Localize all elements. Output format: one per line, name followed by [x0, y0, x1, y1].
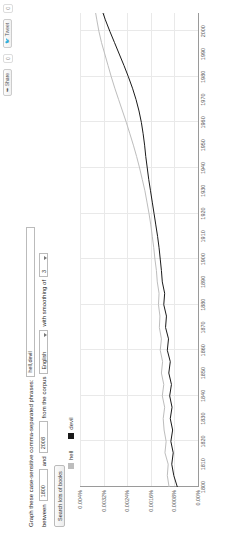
x-axis-tick-label: 1950: [200, 139, 206, 151]
x-axis-tick-label: 1970: [200, 93, 206, 105]
legend-item: hell: [68, 451, 74, 469]
x-axis-tick-label: 1930: [200, 185, 206, 197]
range-row: between and from the corpus English with…: [39, 6, 48, 527]
year-start-input[interactable]: [39, 469, 48, 501]
x-axis-tick-label: 1880: [200, 299, 206, 311]
tweet-label: Tweet: [5, 23, 10, 36]
chart-legend: helldevil: [68, 417, 74, 469]
x-axis-tick-label: 2000: [200, 25, 206, 37]
x-axis-tick-label: 1840: [200, 390, 206, 402]
legend-label: hell: [68, 451, 74, 460]
x-axis-tick-label: 1900: [200, 253, 206, 265]
y-axis-tick-label: 0.0016%: [148, 490, 154, 512]
rotated-viewport: ➥ Share 0 🐦 Tweet 0 Graph these case-sen…: [0, 0, 230, 533]
tweet-button[interactable]: 🐦 Tweet: [3, 19, 12, 48]
x-axis-tick-label: 1870: [200, 321, 206, 333]
x-axis-tick-label: 1820: [200, 435, 206, 447]
x-axis-tick-label: 1800: [200, 481, 206, 493]
x-axis-tick-label: 1810: [200, 458, 206, 470]
twitter-bird-icon: 🐦: [5, 38, 10, 44]
x-axis-tick-label: 1960: [200, 116, 206, 128]
x-axis-tick-label: 1850: [200, 367, 206, 379]
phrases-row: Graph these case-sensitive comma-separat…: [26, 6, 35, 527]
x-axis-tick-label: 1910: [200, 230, 206, 242]
y-axis-tick-label: 0.004%: [77, 490, 83, 509]
and-label: and: [41, 456, 47, 466]
phrases-input[interactable]: [26, 227, 35, 377]
share-icon: ➥: [5, 88, 10, 92]
legend-swatch-icon: [68, 463, 74, 469]
y-axis-tick-label: 0.0032%: [101, 490, 107, 512]
search-books-button[interactable]: Search lots of books: [54, 465, 65, 527]
legend-swatch-icon: [68, 433, 74, 439]
series-line-devil: [103, 13, 177, 487]
corpus-label: from the corpus: [41, 377, 47, 419]
between-label: between: [41, 504, 47, 527]
x-axis-tick-label: 1940: [200, 162, 206, 174]
x-axis-tick-label: 1980: [200, 71, 206, 83]
legend-item: devil: [68, 417, 74, 438]
x-axis-tick-label: 1860: [200, 344, 206, 356]
x-axis-tick-label: 1830: [200, 413, 206, 425]
social-share-bar: ➥ Share 0 🐦 Tweet 0: [3, 4, 13, 96]
ngram-chart: 0.00%0.0008%0.0016%0.0024%0.0032%0.004%1…: [80, 13, 198, 487]
corpus-select[interactable]: English: [39, 330, 48, 374]
smoothing-select[interactable]: 3: [39, 253, 48, 277]
share-count: 0: [3, 54, 13, 63]
year-end-input[interactable]: [39, 421, 48, 453]
y-axis-tick-label: 0.0008%: [171, 490, 177, 512]
x-axis-tick-label: 1920: [200, 207, 206, 219]
query-form: Graph these case-sensitive comma-separat…: [26, 6, 69, 527]
ngram-viewer-page: ➥ Share 0 🐦 Tweet 0 Graph these case-sen…: [0, 0, 230, 533]
x-axis: [198, 13, 199, 487]
series-lines: [80, 13, 198, 487]
y-axis-tick-label: 0.0024%: [124, 490, 130, 512]
tweet-count: 0: [3, 4, 13, 13]
series-line-hell: [96, 13, 169, 487]
graph-phrases-label: Graph these case-sensitive comma-separat…: [28, 380, 34, 527]
x-axis-tick-label: 1890: [200, 276, 206, 288]
legend-label: devil: [68, 417, 74, 429]
submit-row: Search lots of books: [52, 6, 65, 527]
smoothing-label: with smoothing of: [41, 280, 47, 327]
share-button[interactable]: ➥ Share: [3, 69, 12, 96]
x-axis-tick-label: 1990: [200, 48, 206, 60]
share-label: Share: [5, 73, 10, 86]
